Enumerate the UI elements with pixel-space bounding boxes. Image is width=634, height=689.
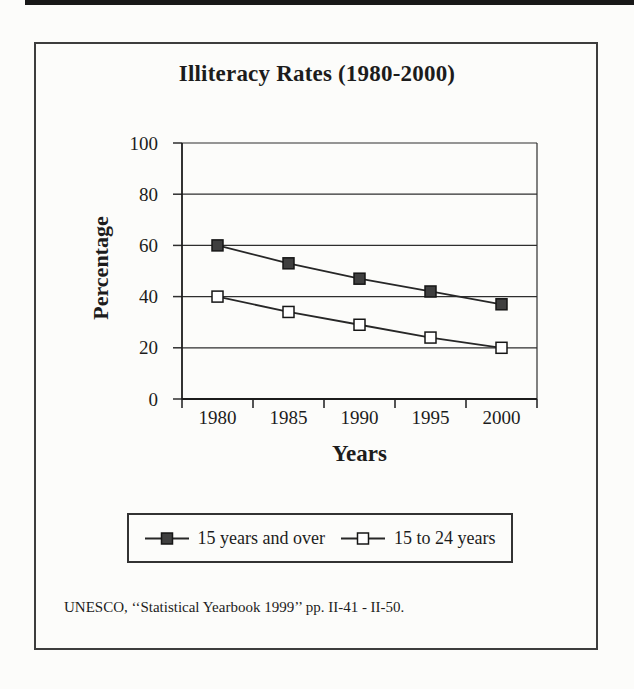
data-point-0-2000 (496, 299, 507, 310)
legend-label: 15 to 24 years (394, 528, 495, 549)
line-chart-plot: 02040608010019801985199019952000 (0, 0, 634, 689)
source-citation: UNESCO, ‘‘Statistical Yearbook 1999’’ pp… (64, 599, 404, 616)
open-square-marker-icon (341, 531, 385, 546)
x-tick-label: 1985 (270, 407, 308, 428)
x-tick-label: 1990 (341, 407, 379, 428)
y-tick-label: 80 (139, 184, 158, 205)
x-tick-label: 2000 (483, 407, 521, 428)
data-point-0-1995 (425, 286, 436, 297)
data-point-1-1985 (283, 306, 294, 317)
data-point-1-2000 (496, 342, 507, 353)
data-point-1-1990 (354, 319, 365, 330)
data-point-1-1980 (212, 291, 223, 302)
data-point-0-1985 (283, 258, 294, 269)
legend-item-15-years-and-over: 15 years and over (145, 528, 325, 549)
y-tick-label: 100 (130, 133, 159, 154)
legend-label: 15 years and over (198, 528, 325, 549)
filled-square-marker-icon (145, 531, 189, 546)
y-tick-label: 60 (139, 235, 158, 256)
x-axis-title: Years (182, 441, 537, 467)
x-tick-label: 1980 (199, 407, 237, 428)
data-point-1-1995 (425, 332, 436, 343)
x-tick-label: 1995 (412, 407, 450, 428)
y-tick-label: 40 (139, 286, 158, 307)
data-point-0-1980 (212, 240, 223, 251)
y-tick-label: 0 (149, 389, 159, 410)
legend-item-15-to-24-years: 15 to 24 years (341, 528, 495, 549)
data-point-0-1990 (354, 273, 365, 284)
chart-legend: 15 years and over 15 to 24 years (127, 513, 513, 563)
y-tick-label: 20 (139, 337, 158, 358)
